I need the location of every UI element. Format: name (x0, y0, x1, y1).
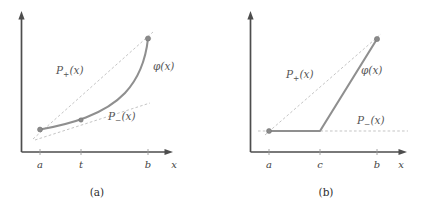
point-a-dot (267, 129, 272, 134)
chord-p-plus-line (33, 32, 153, 139)
point-a-dot (38, 127, 43, 132)
x-axis-label: x (171, 159, 177, 170)
figure-container: P+(x) P−(x) φ(x) a t b x (a) (0, 0, 422, 203)
panel-b-svg: P+(x) P−(x) φ(x) a c b x (b) (211, 0, 422, 203)
ticklabel-t: t (79, 159, 84, 170)
panel-b-caption: (b) (319, 186, 334, 198)
panel-a: P+(x) P−(x) φ(x) a t b x (a) (0, 0, 211, 203)
y-axis-arrowhead (247, 11, 253, 20)
panel-a-caption: (a) (90, 186, 104, 198)
x-axis-label: x (398, 159, 404, 170)
x-axis-arrowhead (165, 149, 174, 155)
label-phi: φ(x) (153, 60, 174, 72)
label-p-minus: P−(x) (107, 110, 136, 125)
ticklabel-c: c (317, 159, 323, 170)
ticklabel-b: b (145, 159, 151, 170)
panel-a-svg: P+(x) P−(x) φ(x) a t b x (a) (0, 0, 211, 203)
point-b-dot (145, 36, 150, 41)
label-phi: φ(x) (361, 64, 382, 76)
ticklabel-b: b (374, 159, 380, 170)
ticklabel-a: a (266, 159, 272, 170)
x-axis-arrowhead (399, 149, 408, 155)
y-axis-arrowhead (18, 11, 24, 20)
label-p-plus: P+(x) (55, 64, 84, 79)
point-b-dot (374, 36, 379, 41)
label-p-minus: P−(x) (356, 114, 385, 129)
panel-b: P+(x) P−(x) φ(x) a c b x (b) (211, 0, 422, 203)
ticklabel-a: a (37, 159, 43, 170)
point-t-dot (79, 118, 83, 122)
label-p-plus: P+(x) (285, 68, 314, 83)
